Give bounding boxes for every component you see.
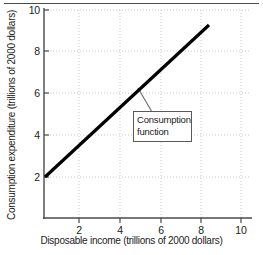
annotation-leader-line bbox=[138, 88, 152, 112]
y-axis-title: Consumption expenditure (trillions of 20… bbox=[6, 0, 17, 235]
y-tick-label-4: 4 bbox=[18, 129, 40, 141]
gridlines-horizontal bbox=[44, 10, 250, 177]
y-axis-ticks bbox=[44, 10, 49, 177]
annotation-line-2: function bbox=[137, 126, 191, 138]
y-tick-label-8: 8 bbox=[18, 45, 40, 57]
x-axis-ticks bbox=[79, 218, 241, 223]
x-axis-title: Disposable income (trillions of 2000 dol… bbox=[0, 235, 263, 246]
y-tick-label-10: 10 bbox=[18, 4, 40, 16]
y-tick-label-6: 6 bbox=[18, 87, 40, 99]
chart-canvas bbox=[0, 0, 263, 255]
annotation-line-1: Consumption bbox=[137, 114, 191, 126]
y-axis-title-wrapper: Consumption expenditure (trillions of 20… bbox=[6, 0, 20, 235]
series-line-consumption-function bbox=[45, 25, 209, 177]
annotation-callout-consumption-function: Consumption function bbox=[133, 111, 192, 142]
y-tick-label-2: 2 bbox=[18, 171, 40, 183]
chart-figure: 10 8 6 4 2 2 4 6 8 10 Disposable income … bbox=[0, 0, 263, 255]
